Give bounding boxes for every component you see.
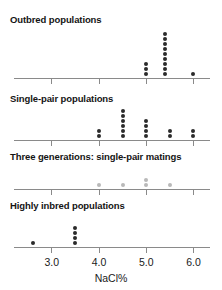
data-point [144, 62, 148, 66]
data-point [144, 129, 148, 133]
data-point [163, 47, 167, 51]
data-point [191, 134, 195, 138]
axis-ticks-highly-inbred [0, 248, 222, 254]
data-point [144, 72, 148, 76]
x-tick-label: 5.0 [139, 256, 154, 268]
x-tick-label: 4.0 [92, 256, 107, 268]
data-point [168, 183, 172, 187]
data-point [121, 183, 125, 187]
data-point [144, 67, 148, 71]
axis-tick [51, 79, 52, 84]
axis-tick [99, 248, 100, 253]
data-point [73, 231, 77, 235]
data-point [163, 32, 167, 36]
data-point [191, 72, 195, 76]
data-point [168, 134, 172, 138]
data-point [121, 129, 125, 133]
data-point [163, 62, 167, 66]
axis-tick [193, 141, 194, 146]
x-tick-label: 3.0 [44, 256, 59, 268]
data-point [97, 134, 101, 138]
plot-area-highly-inbred [0, 196, 222, 247]
panel-single-pair-populations: Single-pair populations [0, 85, 222, 147]
panel-highly-inbred-populations: Highly inbred populations [0, 196, 222, 252]
data-point [31, 241, 35, 245]
axis-tick [146, 141, 147, 146]
data-point [121, 114, 125, 118]
panel-outbred-populations: Outbred populations [0, 0, 222, 84]
data-point [144, 119, 148, 123]
axis-tick [193, 190, 194, 195]
x-tick-label: 6.0 [186, 256, 201, 268]
data-point [163, 57, 167, 61]
axis-tick [146, 79, 147, 84]
data-point [121, 124, 125, 128]
data-point [163, 52, 167, 56]
data-point [144, 183, 148, 187]
data-point [121, 134, 125, 138]
data-point [144, 134, 148, 138]
axis-tick [193, 79, 194, 84]
x-axis-tick-labels: 3.04.05.06.0 [0, 256, 222, 270]
data-point [121, 119, 125, 123]
data-point [163, 72, 167, 76]
axis-tick [51, 190, 52, 195]
axis-tick [51, 248, 52, 253]
data-point [163, 37, 167, 41]
data-point [191, 129, 195, 133]
plot-area-outbred [0, 0, 222, 78]
axis-tick [99, 190, 100, 195]
plot-area-three-generations [0, 147, 222, 189]
data-point [73, 241, 77, 245]
axis-tick [146, 190, 147, 195]
data-point [73, 236, 77, 240]
axis-tick [146, 248, 147, 253]
data-point [144, 124, 148, 128]
data-point [163, 42, 167, 46]
dot-plot-figure: Outbred populations Single-pair populati… [0, 0, 222, 290]
axis-tick [99, 141, 100, 146]
data-point [144, 178, 148, 182]
x-axis-title: NaCl% [0, 272, 222, 284]
panel-three-generations: Three generations: single-pair matings [0, 147, 222, 195]
data-point [97, 129, 101, 133]
plot-area-single-pair [0, 85, 222, 140]
axis-tick [51, 141, 52, 146]
axis-tick [193, 248, 194, 253]
axis-tick [99, 79, 100, 84]
data-point [121, 109, 125, 113]
data-point [73, 226, 77, 230]
data-point [168, 129, 172, 133]
data-point [97, 183, 101, 187]
data-point [163, 67, 167, 71]
